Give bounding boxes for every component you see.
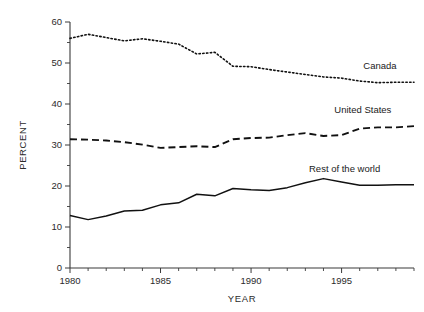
x-axis-tick-label: 1995 (331, 275, 352, 286)
series-line-canada (70, 34, 414, 82)
x-axis-tick-label: 1985 (150, 275, 171, 286)
y-axis-tick-label: 50 (51, 57, 62, 68)
x-axis-tick-label: 1980 (59, 275, 80, 286)
y-axis-title: PERCENT (17, 120, 28, 170)
y-axis-tick-label: 60 (51, 16, 62, 27)
chart-tick-marks (65, 22, 414, 273)
chart-tick-labels: 01020304050601980198519901995 (51, 16, 352, 286)
x-axis-title: YEAR (228, 293, 256, 304)
y-axis-tick-label: 20 (51, 180, 62, 191)
y-axis-tick-label: 10 (51, 221, 62, 232)
series-label-united-states: United States (334, 104, 391, 115)
y-axis-tick-label: 40 (51, 98, 62, 109)
chart-figure: 01020304050601980198519901995 CanadaUnit… (0, 0, 424, 312)
series-label-canada: Canada (363, 60, 397, 71)
series-label-rest-of-the-world: Rest of the world (309, 163, 380, 174)
x-axis-tick-label: 1990 (240, 275, 261, 286)
series-line-united-states (70, 126, 414, 148)
line-chart: 01020304050601980198519901995 CanadaUnit… (0, 0, 424, 312)
y-axis-tick-label: 0 (57, 262, 62, 273)
series-line-rest-of-the-world (70, 179, 414, 220)
y-axis-tick-label: 30 (51, 139, 62, 150)
